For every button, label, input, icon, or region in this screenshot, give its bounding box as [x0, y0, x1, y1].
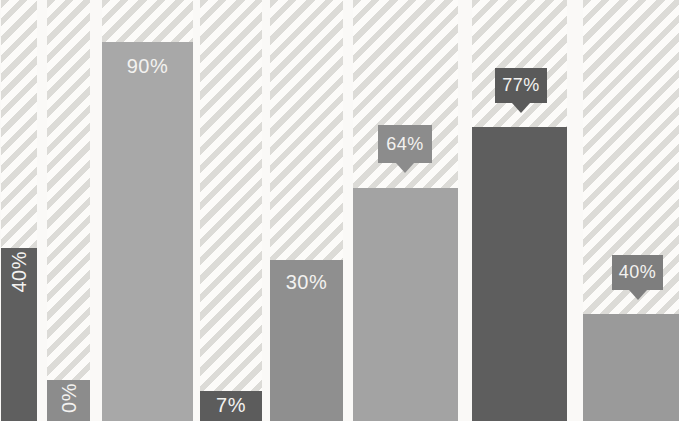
- hatched-track-100pct: [200, 0, 262, 421]
- bar-value-label: 30%: [286, 260, 328, 421]
- bar: 40%: [1, 248, 37, 421]
- bar: 90%: [102, 42, 193, 421]
- value-callout: 77%: [495, 68, 547, 103]
- value-callout: 40%: [612, 255, 663, 290]
- bar-value-label: 0%: [58, 380, 80, 413]
- bar: 7%: [200, 391, 262, 421]
- callout-value-label: 40%: [619, 262, 657, 283]
- bar-value-label: 90%: [127, 42, 169, 421]
- callout-pointer-icon: [629, 290, 647, 300]
- hatched-track-100pct: [47, 0, 90, 421]
- callout-value-label: 64%: [386, 134, 424, 155]
- bar-column: 40%: [1, 0, 37, 421]
- bar-value-label: 7%: [216, 391, 246, 421]
- bar-column: [472, 0, 567, 421]
- callout-pointer-icon: [396, 163, 414, 173]
- bar: [472, 127, 567, 421]
- bar: [353, 188, 458, 421]
- percentage-bar-chart: 40%0%90%7%30%64%77%40%: [0, 0, 679, 421]
- callout-value-label: 77%: [502, 75, 540, 96]
- bar: [583, 314, 679, 421]
- value-callout: 64%: [378, 125, 432, 163]
- bar-column: 0%: [47, 0, 90, 421]
- callout-pointer-icon: [512, 103, 530, 113]
- bar: 30%: [270, 260, 343, 421]
- bar-column: 90%: [102, 0, 193, 421]
- bar-column: [583, 0, 679, 421]
- bar: 0%: [47, 380, 90, 421]
- bar-column: [353, 0, 458, 421]
- bar-value-label: 40%: [8, 248, 30, 293]
- bar-column: 7%: [200, 0, 262, 421]
- bar-column: 30%: [270, 0, 343, 421]
